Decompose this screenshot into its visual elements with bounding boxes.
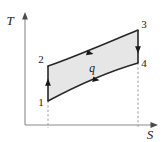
ts-diagram-canvas: T S 1 2 3 4 q <box>0 0 166 142</box>
ts-diagram-figure: T S 1 2 3 4 q <box>0 0 166 142</box>
t-axis-arrowhead <box>22 12 28 20</box>
state-label-3: 3 <box>141 18 147 30</box>
t-axis-label: T <box>6 13 14 28</box>
s-axis-label: S <box>147 127 154 142</box>
heat-transfer-label: q <box>89 62 95 75</box>
state-label-1: 1 <box>38 96 44 108</box>
state-label-2: 2 <box>38 53 44 65</box>
state-label-4: 4 <box>141 57 147 69</box>
